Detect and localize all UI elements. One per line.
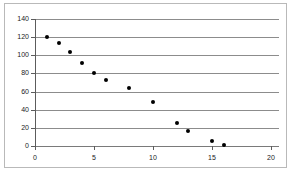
data-point	[175, 121, 179, 125]
x-tick-0	[35, 146, 36, 150]
data-point	[92, 71, 96, 75]
gridline-120	[35, 37, 279, 38]
y-tick-label: 0	[5, 142, 29, 150]
y-axis-label-80: 80	[5, 69, 29, 77]
x-axis-label-5: 5	[82, 153, 106, 162]
y-tick-label: 100	[5, 51, 29, 59]
y-tick-100	[31, 55, 36, 56]
x-tick-label: 20	[259, 153, 283, 162]
x-tick-15	[212, 146, 213, 150]
x-tick-label: 15	[200, 153, 224, 162]
x-tick-20	[271, 146, 272, 150]
y-tick-label: 80	[5, 69, 29, 77]
x-tick-label: 5	[82, 153, 106, 162]
x-tick-label: 0	[23, 153, 47, 162]
x-tick-label: 10	[141, 153, 165, 162]
x-axis-label-15: 15	[200, 153, 224, 162]
y-tick-label: 40	[5, 106, 29, 114]
y-axis-label-120: 120	[5, 33, 29, 41]
y-tick-140	[31, 19, 36, 20]
data-point	[186, 129, 190, 133]
x-axis-label-20: 20	[259, 153, 283, 162]
gridline-40	[35, 110, 279, 111]
gridline-60	[35, 92, 279, 93]
y-axis-label-140: 140	[5, 15, 29, 23]
y-tick-label: 140	[5, 15, 29, 23]
gridline-20	[35, 128, 279, 129]
y-tick-20	[31, 128, 36, 129]
x-tick-10	[153, 146, 154, 150]
data-point	[45, 35, 49, 39]
gridline-0	[35, 146, 279, 147]
data-point	[68, 50, 72, 54]
data-point	[57, 41, 61, 45]
data-point	[104, 78, 108, 82]
data-point	[222, 143, 226, 147]
y-tick-60	[31, 92, 36, 93]
y-axis-label-40: 40	[5, 106, 29, 114]
x-axis-label-10: 10	[141, 153, 165, 162]
y-axis-label-60: 60	[5, 88, 29, 96]
y-tick-120	[31, 37, 36, 38]
x-axis-label-0: 0	[23, 153, 47, 162]
y-tick-label: 120	[5, 33, 29, 41]
y-axis-label-100: 100	[5, 51, 29, 59]
x-tick-5	[94, 146, 95, 150]
y-tick-label: 20	[5, 124, 29, 132]
data-point	[127, 86, 131, 90]
y-tick-80	[31, 73, 36, 74]
y-axis-label-0: 0	[5, 142, 29, 150]
y-tick-label: 60	[5, 88, 29, 96]
data-point	[210, 139, 214, 143]
gridline-140	[35, 19, 279, 20]
chart-frame: 140 120 100 80 60 40 20 0 0	[4, 3, 287, 168]
data-point	[151, 100, 155, 104]
gridline-100	[35, 55, 279, 56]
data-point	[80, 61, 84, 65]
plot-area: 140 120 100 80 60 40 20 0 0	[5, 4, 286, 167]
y-tick-40	[31, 110, 36, 111]
gridline-80	[35, 73, 279, 74]
y-axis-label-20: 20	[5, 124, 29, 132]
